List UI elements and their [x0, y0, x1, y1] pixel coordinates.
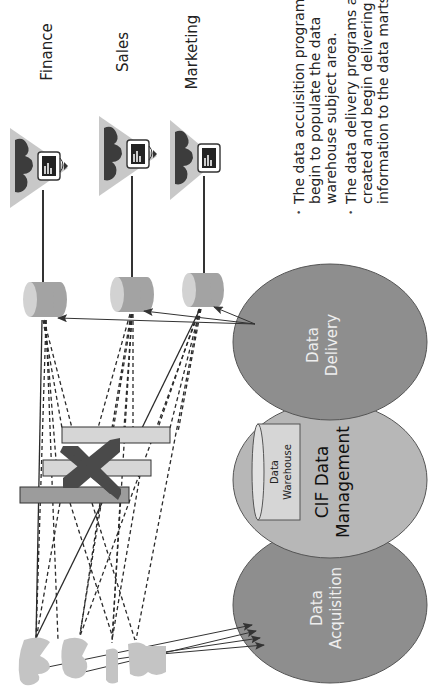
diagram-canvas: Finance Sales Marketing [0, 0, 439, 688]
bullet-1: • The data accuisition programs begin to… [291, 0, 339, 215]
bullet-2-symbol: • [346, 210, 356, 215]
data-mart-cylinder-marketing [182, 273, 224, 307]
bullet-2: • The data delivery programs are created… [343, 0, 391, 215]
management-label-line1: CIF Data [312, 446, 332, 519]
delivery-label-line2: Delivery [323, 314, 341, 376]
bullet-1-line1: The data accuisition programs [291, 0, 307, 205]
data-mart-labels: Finance Sales Marketing [38, 15, 201, 90]
bullet-2-line1: The data delivery programs are [343, 0, 359, 205]
delivery-arrows [58, 307, 255, 324]
data-mart-label-marketing: Marketing [183, 15, 201, 90]
user-group-icon-sales [99, 116, 157, 196]
source-system-icon-3 [106, 648, 118, 683]
bullet-1-line3: warehouse subject area. [323, 32, 339, 204]
source-systems [19, 637, 166, 685]
data-mart-cylinder-sales [110, 277, 154, 312]
acquisition-label-line2: Acquisition [327, 567, 345, 649]
management-label-line2: Management [333, 426, 353, 538]
user-group-icon-marketing [170, 120, 220, 200]
warehouse-label-line1: Data [269, 460, 280, 484]
data-mart-label-sales: Sales [114, 32, 132, 72]
delivery-label-line1: Data [304, 327, 322, 363]
bullet-1-symbol: • [294, 210, 304, 215]
bullet-notes: • The data accuisition programs begin to… [291, 0, 391, 215]
data-mart-cylinder-finance [23, 282, 67, 317]
source-system-icon-2 [61, 638, 88, 679]
bullet-1-line2: begin to populate the data [307, 17, 323, 204]
mart-connectors [43, 176, 204, 282]
bullet-2-line2: created and begin delivering [359, 2, 375, 204]
warehouse-label-line2: Warehouse [282, 444, 293, 500]
data-warehouse-cylinder: Data Warehouse [252, 424, 300, 520]
user-group-icon-finance [10, 128, 68, 208]
data-mart-label-finance: Finance [38, 23, 56, 80]
acquisition-label-line1: Data [308, 590, 326, 626]
source-system-icon-1 [19, 637, 50, 685]
source-system-icon-4 [128, 642, 166, 676]
bullet-2-line3: information to the data marts. [375, 0, 391, 204]
